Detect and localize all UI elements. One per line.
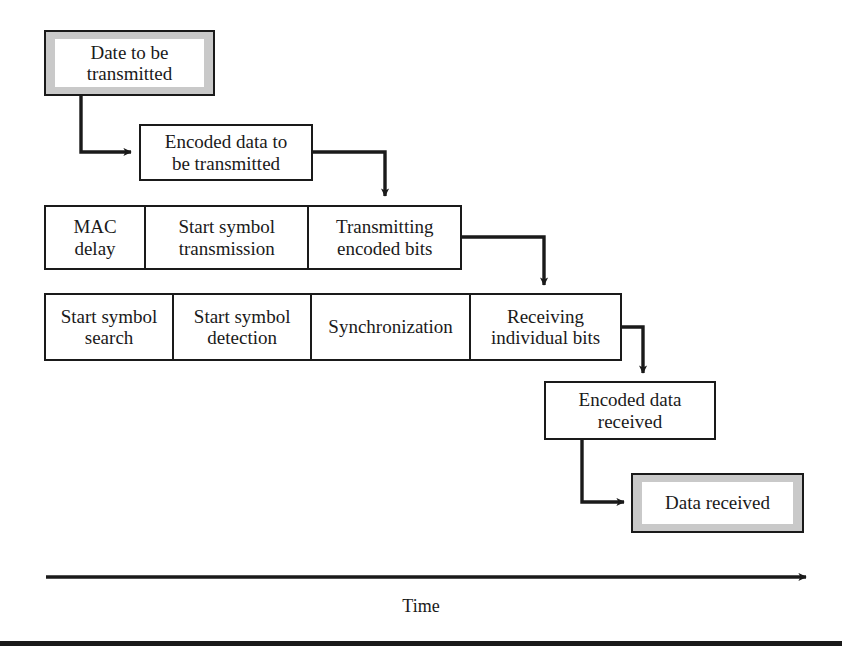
diagram-canvas: Date to be transmitted Encoded data to b…	[0, 0, 842, 657]
cell-start-symbol-detection[interactable]: Start symbol detection	[174, 295, 312, 359]
node-label-line1: Date to be	[90, 42, 168, 63]
node-label-line2: received	[598, 411, 662, 432]
cell-label-line2: detection	[207, 327, 277, 348]
cell-label-line1: MAC	[73, 216, 116, 237]
node-encoded-data-received[interactable]: Encoded data received	[544, 381, 716, 440]
connector-transmitting-to-receiving	[461, 237, 544, 285]
cell-label-line1: Start symbol	[178, 216, 275, 237]
cell-label-line1: Synchronization	[328, 316, 453, 337]
node-data-to-be-transmitted[interactable]: Date to be transmitted	[44, 30, 215, 96]
cell-transmitting-encoded-bits[interactable]: Transmitting encoded bits	[309, 207, 460, 268]
cell-label-line2: delay	[74, 238, 115, 259]
cell-start-symbol-transmission[interactable]: Start symbol transmission	[146, 207, 309, 268]
node-label-line1: Data received	[665, 492, 770, 513]
cell-label-line2: individual bits	[491, 327, 600, 348]
node-label-line1: Encoded data	[579, 389, 682, 410]
node-label-line2: transmitted	[87, 63, 172, 84]
cell-label-line1: Start symbol	[61, 306, 158, 327]
cell-label-line1: Transmitting	[336, 216, 434, 237]
node-label-line1: Encoded data to	[165, 131, 287, 152]
cell-label-line1: Start symbol	[194, 306, 291, 327]
time-axis-label-text: Time	[402, 596, 439, 616]
node-data-received[interactable]: Data received	[631, 473, 804, 533]
connector-encoded-to-transmitting	[312, 152, 385, 196]
connector-encoded-received-to-data-received	[582, 440, 624, 502]
cell-label-line2: encoded bits	[337, 238, 433, 259]
node-label-line2: be transmitted	[172, 153, 280, 174]
bottom-divider	[0, 641, 842, 646]
node-data-received-label: Data received	[642, 482, 793, 524]
cell-mac-delay[interactable]: MAC delay	[46, 207, 146, 268]
cell-receiving-individual-bits[interactable]: Receiving individual bits	[471, 295, 620, 359]
transmitter-timeline-row: MAC delay Start symbol transmission Tran…	[44, 205, 462, 270]
connector-data-to-encoded	[81, 95, 131, 152]
cell-label-line2: transmission	[179, 238, 275, 259]
connector-receiving-to-encoded-received	[621, 327, 643, 373]
node-data-to-be-transmitted-label: Date to be transmitted	[55, 39, 204, 87]
cell-label-line2: search	[85, 327, 134, 348]
receiver-timeline-row: Start symbol search Start symbol detecti…	[44, 293, 622, 361]
time-axis-label: Time	[0, 596, 842, 617]
node-encoded-data-to-be-transmitted[interactable]: Encoded data to be transmitted	[139, 124, 313, 181]
cell-start-symbol-search[interactable]: Start symbol search	[46, 295, 174, 359]
cell-synchronization[interactable]: Synchronization	[312, 295, 471, 359]
cell-label-line1: Receiving	[507, 306, 584, 327]
